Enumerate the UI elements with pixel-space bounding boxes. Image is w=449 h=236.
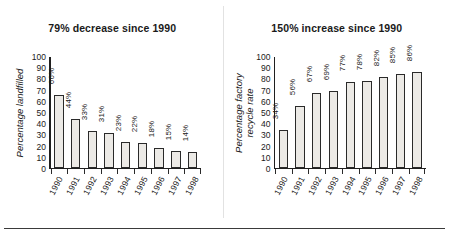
chart-title-right: 150% increase since 1990 <box>225 22 449 34</box>
bar-slot: 86% <box>409 57 426 168</box>
y-tick-label: 60 <box>261 98 270 107</box>
plot-left: Percentage landfilled 100908070605040302… <box>0 57 225 217</box>
x-tick-mark <box>392 169 409 174</box>
bar-value-label: 33% <box>81 104 89 120</box>
figure-container: 79% decrease since 1990 Percentage landf… <box>0 0 449 236</box>
x-tick-label: 1991 <box>290 175 307 197</box>
bar-value-label: 67% <box>306 66 314 82</box>
bar-series-left: 66%44%33%31%23%22%18%15%14% <box>51 57 202 168</box>
x-tick-label: 1990 <box>48 175 65 197</box>
x-label-slot: 1997 <box>392 175 409 215</box>
bar-value-label: 69% <box>323 64 331 80</box>
x-tick-mark <box>342 169 359 174</box>
y-tick-label: 80 <box>37 75 46 84</box>
x-label-slot: 1995 <box>358 175 375 215</box>
y-tick-label: 40 <box>261 120 270 129</box>
x-tick-label: 1998 <box>408 175 425 197</box>
bar-slot: 78% <box>359 57 376 168</box>
x-axis-labels-left: 199019911992199319941995199619971998 <box>49 175 201 215</box>
y-axis-ticks-right: 1009080706050403020100 <box>249 57 271 169</box>
bar[interactable]: 82% <box>379 77 388 168</box>
bar-value-label: 14% <box>182 125 190 141</box>
bar[interactable]: 23% <box>121 142 130 167</box>
y-tick-label: 0 <box>41 165 46 174</box>
bar-value-label: 23% <box>115 115 123 131</box>
y-tick-label: 70 <box>37 86 46 95</box>
x-label-slot: 1993 <box>324 175 341 215</box>
bar[interactable]: 15% <box>171 151 180 168</box>
x-label-slot: 1993 <box>100 175 117 215</box>
bar-slot: 14% <box>184 57 201 168</box>
y-tick-label: 0 <box>266 165 271 174</box>
x-tick-mark <box>275 169 292 174</box>
y-tick-label: 50 <box>261 109 270 118</box>
bar-slot: 34% <box>275 57 292 168</box>
y-tick-label: 10 <box>261 154 270 163</box>
x-label-slot: 1994 <box>117 175 134 215</box>
x-tick-mark <box>168 169 185 174</box>
bar-value-label: 18% <box>148 120 156 136</box>
bar[interactable]: 56% <box>295 106 304 168</box>
bar[interactable]: 85% <box>396 74 405 168</box>
bar-value-label: 66% <box>48 67 56 83</box>
bar[interactable]: 67% <box>312 93 321 167</box>
x-label-slot: 1991 <box>66 175 83 215</box>
plot-area-right: 34%56%67%69%77%78%82%85%86% <box>274 57 426 169</box>
x-label-slot: 1992 <box>83 175 100 215</box>
x-tick-label: 1997 <box>391 175 408 197</box>
x-label-slot: 1996 <box>150 175 167 215</box>
x-label-slot: 1998 <box>184 175 201 215</box>
bar-slot: 22% <box>134 57 151 168</box>
bar[interactable]: 33% <box>88 131 97 167</box>
bar-slot: 85% <box>392 57 409 168</box>
y-tick-label: 30 <box>261 131 270 140</box>
y-tick-label: 20 <box>261 142 270 151</box>
bar-slot: 69% <box>325 57 342 168</box>
bar[interactable]: 78% <box>362 81 371 167</box>
x-tick-mark <box>184 169 201 174</box>
y-tick-label: 90 <box>261 64 270 73</box>
x-label-slot: 1990 <box>49 175 66 215</box>
chart-panel-right: 150% increase since 1990 Percentage fact… <box>225 0 449 236</box>
x-tick-label: 1994 <box>116 175 133 197</box>
bar-value-label: 22% <box>131 116 139 132</box>
bar[interactable]: 18% <box>154 148 163 168</box>
y-tick-label: 60 <box>37 98 46 107</box>
chart-panel-left: 79% decrease since 1990 Percentage landf… <box>0 0 225 236</box>
x-tick-label: 1997 <box>166 175 183 197</box>
x-tick-label: 1990 <box>273 175 290 197</box>
bar[interactable]: 44% <box>71 119 80 168</box>
bar-value-label: 31% <box>98 106 106 122</box>
x-tick-label: 1992 <box>306 175 323 197</box>
bar[interactable]: 86% <box>412 72 421 167</box>
bar-value-label: 44% <box>65 92 73 108</box>
x-label-slot: 1996 <box>375 175 392 215</box>
x-tick-mark <box>409 169 426 174</box>
bar-value-label: 86% <box>406 45 414 61</box>
y-tick-label: 10 <box>37 154 46 163</box>
plot-area-left: 66%44%33%31%23%22%18%15%14% <box>49 57 201 169</box>
y-axis-title-right-line-1: Percentage factory <box>233 73 244 153</box>
y-tick-label: 80 <box>261 75 270 84</box>
bar[interactable]: 66% <box>54 95 63 168</box>
bar[interactable]: 77% <box>346 82 355 167</box>
x-tick-label: 1995 <box>133 175 150 197</box>
bar[interactable]: 14% <box>188 152 197 167</box>
x-tick-label: 1995 <box>357 175 374 197</box>
bar-value-label: 15% <box>165 124 173 140</box>
bar-slot: 18% <box>151 57 168 168</box>
bar-slot: 66% <box>51 57 68 168</box>
bar-value-label: 85% <box>389 46 397 62</box>
y-tick-label: 20 <box>37 142 46 151</box>
x-tick-label: 1998 <box>183 175 200 197</box>
bar[interactable]: 34% <box>279 130 288 168</box>
x-tick-mark <box>359 169 376 174</box>
x-tick-mark <box>101 169 118 174</box>
chart-title-left: 79% decrease since 1990 <box>0 22 225 34</box>
bar[interactable]: 22% <box>138 143 147 167</box>
bar[interactable]: 31% <box>104 133 113 167</box>
bar[interactable]: 69% <box>329 91 338 167</box>
y-axis-title-left-line-1: Percentage landfilled <box>14 69 25 158</box>
bar-value-label: 78% <box>356 54 364 70</box>
bar-value-label: 82% <box>373 50 381 66</box>
